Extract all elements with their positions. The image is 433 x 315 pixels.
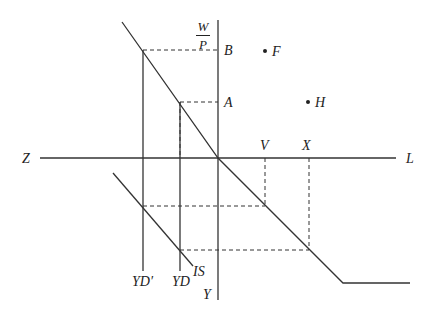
label-f: F: [272, 45, 281, 59]
label-y: Y: [203, 288, 211, 302]
fraction-bar: [196, 35, 210, 36]
point-f-dot: [263, 49, 267, 53]
point-h-dot: [306, 100, 310, 104]
label-h: H: [315, 96, 325, 110]
label-z: Z: [22, 152, 30, 166]
label-yd: YD: [172, 275, 190, 289]
label-b: B: [224, 44, 233, 58]
label-a: A: [224, 96, 233, 110]
label-l: L: [406, 152, 414, 166]
label-v: V: [260, 139, 269, 153]
label-x: X: [302, 139, 311, 153]
diagram-canvas: [0, 0, 433, 315]
axis-label-p: P: [195, 38, 211, 51]
axis-label-w: W: [195, 20, 211, 33]
label-yd-prime: YD′: [132, 275, 153, 289]
label-is: IS: [193, 265, 205, 279]
is-curve: [113, 173, 193, 266]
